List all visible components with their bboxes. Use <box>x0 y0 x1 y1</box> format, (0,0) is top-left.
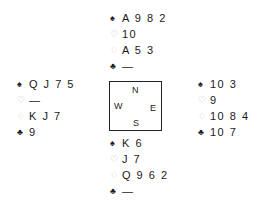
south-diamonds: Q 9 6 2 <box>122 167 169 183</box>
north-diamonds: A 5 3 <box>122 42 155 58</box>
diamond-icon: ♢ <box>110 42 122 58</box>
east-clubs: 10 7 <box>210 124 237 140</box>
club-icon: ♣ <box>110 183 122 199</box>
compass-east-label: E <box>150 103 156 113</box>
east-diamonds: 10 8 4 <box>210 108 250 124</box>
east-hearts-row: ♡ 9 <box>198 92 250 108</box>
west-hearts-row: ♡ — <box>17 92 75 108</box>
south-hearts: J 7 <box>122 151 141 167</box>
spade-icon: ♠ <box>198 76 210 92</box>
south-spades-row: ♠ K 6 <box>110 135 169 151</box>
west-diamonds-row: ♢ K J 7 <box>17 108 75 124</box>
north-hearts-row: ♡ 10 <box>110 26 167 42</box>
west-clubs-row: ♣ 9 <box>17 124 75 140</box>
compass-west-label: W <box>114 101 123 111</box>
compass-north-label: N <box>132 85 139 95</box>
heart-icon: ♡ <box>110 151 122 167</box>
west-hand: ♠ Q J 7 5 ♡ — ♢ K J 7 ♣ 9 <box>17 76 75 140</box>
west-diamonds: K J 7 <box>29 108 62 124</box>
east-diamonds-row: ♢ 10 8 4 <box>198 108 250 124</box>
south-hearts-row: ♡ J 7 <box>110 151 169 167</box>
east-spades-row: ♠ 10 3 <box>198 76 250 92</box>
club-icon: ♣ <box>198 124 210 140</box>
east-spades: 10 3 <box>210 76 237 92</box>
south-clubs-row: ♣ — <box>110 183 169 199</box>
west-spades-row: ♠ Q J 7 5 <box>17 76 75 92</box>
compass-south-label: S <box>133 118 139 128</box>
heart-icon: ♡ <box>198 92 210 108</box>
diamond-icon: ♢ <box>110 167 122 183</box>
club-icon: ♣ <box>110 58 122 74</box>
club-icon: ♣ <box>17 124 29 140</box>
south-diamonds-row: ♢ Q 9 6 2 <box>110 167 169 183</box>
spade-icon: ♠ <box>17 76 29 92</box>
north-spades-row: ♠ A 9 8 2 <box>110 10 167 26</box>
diamond-icon: ♢ <box>17 108 29 124</box>
north-spades: A 9 8 2 <box>122 10 167 26</box>
south-hand: ♠ K 6 ♡ J 7 ♢ Q 9 6 2 ♣ — <box>110 135 169 199</box>
compass-box: N W E S <box>109 81 162 131</box>
diamond-icon: ♢ <box>198 108 210 124</box>
north-hand: ♠ A 9 8 2 ♡ 10 ♢ A 5 3 ♣ — <box>110 10 167 74</box>
north-diamonds-row: ♢ A 5 3 <box>110 42 167 58</box>
north-clubs-row: ♣ — <box>110 58 167 74</box>
heart-icon: ♡ <box>110 26 122 42</box>
south-spades: K 6 <box>122 135 143 151</box>
north-clubs: — <box>122 58 135 74</box>
south-clubs: — <box>122 183 135 199</box>
east-clubs-row: ♣ 10 7 <box>198 124 250 140</box>
west-spades: Q J 7 5 <box>29 76 75 92</box>
spade-icon: ♠ <box>110 10 122 26</box>
east-hand: ♠ 10 3 ♡ 9 ♢ 10 8 4 ♣ 10 7 <box>198 76 250 140</box>
west-hearts: — <box>29 92 42 108</box>
spade-icon: ♠ <box>110 135 122 151</box>
north-hearts: 10 <box>122 26 137 42</box>
east-hearts: 9 <box>210 92 218 108</box>
heart-icon: ♡ <box>17 92 29 108</box>
west-clubs: 9 <box>29 124 37 140</box>
